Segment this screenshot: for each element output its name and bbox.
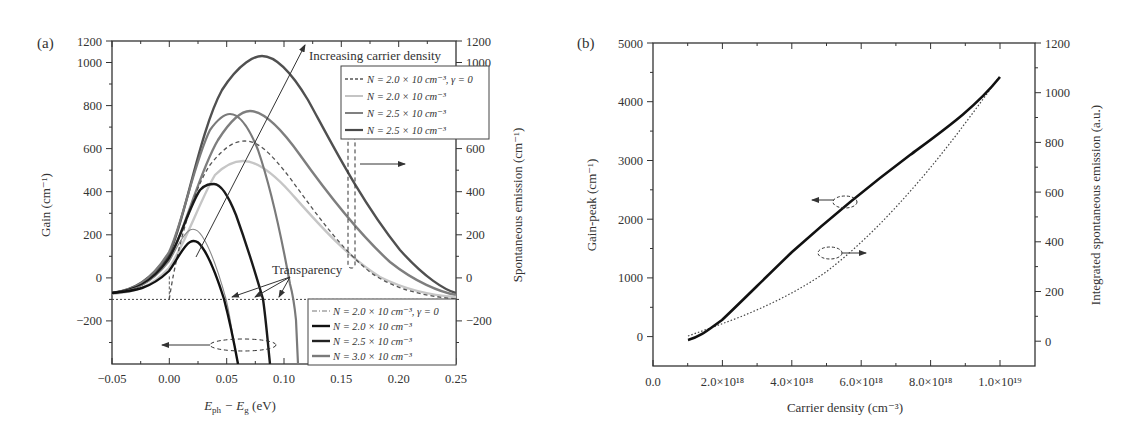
tick-label: 0.10 bbox=[273, 372, 295, 386]
tick-label: 0 bbox=[96, 271, 102, 285]
increasing-density-label: Increasing carrier density bbox=[309, 48, 442, 63]
tick-label: 0.00 bbox=[158, 372, 180, 386]
panel-b-x-axis-title: Carrier density (cm⁻³) bbox=[787, 400, 903, 415]
panel-a-left-ticks bbox=[106, 41, 112, 343]
panel-b-curves bbox=[688, 76, 1000, 340]
tick-label: 1200 bbox=[466, 35, 491, 49]
spont-group-ellipse bbox=[348, 138, 355, 268]
tick-label: 2000 bbox=[618, 213, 643, 227]
tick-label: 0.15 bbox=[330, 372, 352, 386]
legend-gain: N = 2.0 × 10 cm⁻³, γ = 0 N = 2.0 × 10 cm… bbox=[308, 299, 456, 365]
tick-label: 5000 bbox=[618, 37, 643, 51]
panel-b: (b) 0 1000 2000 3000 4000 5000 bbox=[577, 35, 1103, 415]
tick-label: 0.20 bbox=[388, 372, 410, 386]
legend-label: N = 2.0 × 10 cm⁻³ bbox=[332, 321, 413, 332]
tick-label: 200 bbox=[1045, 285, 1064, 299]
tick-label: 1000 bbox=[77, 56, 102, 70]
panel-b-left-ticks bbox=[647, 43, 653, 337]
tick-label: 0.25 bbox=[445, 372, 467, 386]
panel-b-left-axis-title: Gain-peak (cm⁻¹) bbox=[584, 159, 599, 252]
tick-label: 6.0×10¹⁸ bbox=[840, 375, 883, 389]
tick-label: −200 bbox=[76, 314, 102, 328]
tick-label: 0.0 bbox=[645, 375, 661, 389]
gain-group-ellipse bbox=[210, 339, 276, 351]
tick-label: −200 bbox=[466, 314, 492, 328]
tick-label: 0 bbox=[1045, 335, 1051, 349]
panel-b-x-ticks bbox=[653, 43, 1000, 366]
tick-label: 0.05 bbox=[216, 372, 238, 386]
tick-label: 8.0×10¹⁸ bbox=[909, 375, 952, 389]
transparency-arrows bbox=[232, 277, 290, 297]
tick-label: 600 bbox=[466, 142, 485, 156]
tick-label: 200 bbox=[466, 228, 485, 242]
legend-label: N = 2.5 × 10 cm⁻³ bbox=[366, 125, 447, 136]
panel-a-label: (a) bbox=[37, 35, 54, 52]
legend-label: N = 2.0 × 10 cm⁻³, γ = 0 bbox=[332, 306, 440, 317]
tick-label: 0 bbox=[637, 330, 643, 344]
tick-label: 600 bbox=[83, 142, 102, 156]
gain-peak-solid-curve bbox=[688, 77, 1000, 340]
panel-a-left-axis-title: Gain (cm⁻¹) bbox=[38, 173, 53, 237]
panel-a-right-axis-title: Spontaneous emission (cm⁻¹) bbox=[510, 128, 525, 282]
tick-label: 1200 bbox=[1045, 37, 1070, 51]
panel-b-right-axis-title: Integrated spontaneous emission (a.u.) bbox=[1088, 105, 1103, 305]
tick-label: 600 bbox=[1045, 186, 1064, 200]
panel-b-plot-frame bbox=[653, 43, 1035, 366]
tick-label: 400 bbox=[83, 185, 102, 199]
tick-label: 0 bbox=[466, 271, 472, 285]
tick-label: 400 bbox=[1045, 235, 1064, 249]
tick-label: 1.0×10¹⁹ bbox=[978, 375, 1021, 389]
panel-a-x-tick-labels: −0.05 0.00 0.05 0.10 0.15 0.20 0.25 bbox=[98, 372, 467, 386]
transparency-label: Transparency bbox=[272, 262, 343, 277]
figure-canvas: (a) −200 0 200 400 600 800 bbox=[0, 0, 1135, 445]
tick-label: −0.05 bbox=[98, 372, 127, 386]
tick-label: 1000 bbox=[618, 271, 643, 285]
panel-a: (a) −200 0 200 400 600 800 bbox=[37, 35, 525, 415]
panel-b-right-ticks bbox=[1035, 43, 1041, 341]
panel-b-right-tick-labels: 0 200 400 600 800 1000 1200 bbox=[1045, 37, 1070, 349]
tick-label: 1200 bbox=[77, 35, 102, 49]
gain-n25-curve bbox=[112, 184, 270, 364]
tick-label: 3000 bbox=[618, 154, 643, 168]
tick-label: 200 bbox=[83, 228, 102, 242]
legend-label: N = 2.0 × 10 cm⁻³, γ = 0 bbox=[366, 74, 474, 85]
legend-label: N = 2.5 × 10 cm⁻³ bbox=[366, 108, 447, 119]
tick-label: 800 bbox=[83, 99, 102, 113]
tick-label: 2.0×10¹⁸ bbox=[701, 375, 744, 389]
legend-label: N = 3.0 × 10 cm⁻³ bbox=[332, 351, 413, 362]
panel-b-left-tick-labels: 0 1000 2000 3000 4000 5000 bbox=[618, 37, 643, 344]
panel-b-x-tick-labels: 0.0 2.0×10¹⁸ 4.0×10¹⁸ 6.0×10¹⁸ 8.0×10¹⁸ … bbox=[645, 375, 1021, 389]
spont-ellipse bbox=[818, 247, 842, 259]
panel-b-label: (b) bbox=[577, 35, 595, 52]
tick-label: 400 bbox=[466, 185, 485, 199]
tick-label: 4000 bbox=[618, 95, 643, 109]
tick-label: 4.0×10¹⁸ bbox=[770, 375, 813, 389]
tick-label: 1000 bbox=[1045, 86, 1070, 100]
legend-label: N = 2.5 × 10 cm⁻³ bbox=[332, 336, 413, 347]
legend-spontaneous: N = 2.0 × 10 cm⁻³, γ = 0 N = 2.0 × 10 cm… bbox=[341, 66, 489, 139]
panel-a-x-axis-title: Eph − Eg (eV) bbox=[203, 398, 276, 415]
legend-label: N = 2.0 × 10 cm⁻³ bbox=[366, 91, 447, 102]
panel-a-left-tick-labels: −200 0 200 400 600 800 1000 1200 bbox=[76, 35, 102, 328]
tick-label: 800 bbox=[1045, 136, 1064, 150]
